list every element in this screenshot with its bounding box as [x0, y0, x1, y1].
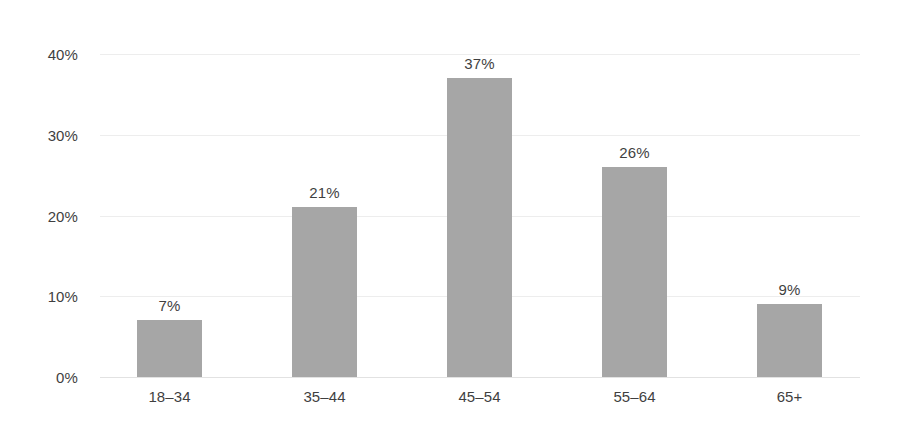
bar[interactable]: [602, 167, 667, 377]
x-axis-tick-label: 45–54: [402, 388, 557, 406]
x-axis-tick-label: 18–34: [92, 388, 247, 406]
plot-area: 7% 18–34 21% 35–44 37% 45–54 26% 55–64 9…: [0, 0, 900, 432]
bar-chart: 40% 30% 20% 10% 0% 7% 18–34 21% 35–44 37…: [0, 0, 900, 432]
x-axis-tick-label: 55–64: [557, 388, 712, 406]
bar-value-label: 9%: [712, 282, 867, 297]
x-axis-tick-label: 35–44: [247, 388, 402, 406]
bar-value-label: 21%: [247, 185, 402, 200]
bar-group: 37% 45–54: [402, 0, 557, 432]
bar-value-label: 37%: [402, 56, 557, 71]
bar-value-label: 7%: [92, 298, 247, 313]
bar[interactable]: [447, 78, 512, 377]
bar-group: 21% 35–44: [247, 0, 402, 432]
bar-group: 9% 65+: [712, 0, 867, 432]
bar-group: 7% 18–34: [92, 0, 247, 432]
bar-value-label: 26%: [557, 145, 712, 160]
bar[interactable]: [137, 320, 202, 377]
bar-group: 26% 55–64: [557, 0, 712, 432]
bar[interactable]: [757, 304, 822, 377]
bar[interactable]: [292, 207, 357, 377]
x-axis-tick-label: 65+: [712, 388, 867, 406]
